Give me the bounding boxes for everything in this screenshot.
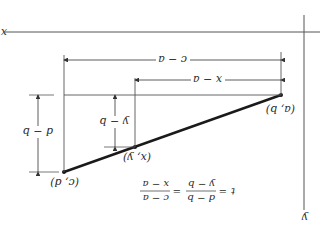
fraction1-numerator: d − b xyxy=(187,193,215,204)
label-c-minus-a: c − a xyxy=(158,53,187,66)
y-axis-label: y xyxy=(301,211,309,224)
label-d-minus-b: d − b xyxy=(23,125,53,138)
label-point-x-y: (x, y) xyxy=(123,151,151,164)
equation-equals-2: = xyxy=(173,186,181,197)
label-point-c-d: (c, d) xyxy=(50,176,79,189)
equation: t = d − b y − b = c − a x − a xyxy=(140,179,235,204)
fraction1-denominator: y − b xyxy=(188,179,216,190)
label-y-minus-b: y − b xyxy=(100,115,130,128)
diagram-canvas: y x c − a x − a d − b y − b ( xyxy=(0,0,329,228)
rotated-content: y x c − a x − a d − b y − b ( xyxy=(0,15,320,224)
label-point-a-b: (a, b) xyxy=(266,103,295,116)
similar-triangles-diagram: y x c − a x − a d − b y − b ( xyxy=(0,0,329,228)
x-axis-label: x xyxy=(0,26,7,39)
fraction2-numerator: c − a xyxy=(143,193,169,204)
equation-lhs: t xyxy=(230,186,235,197)
line-segment xyxy=(64,95,281,172)
equation-equals-1: = xyxy=(219,186,227,197)
fraction2-denominator: x − a xyxy=(143,179,169,190)
label-x-minus-a: x − a xyxy=(193,73,222,86)
